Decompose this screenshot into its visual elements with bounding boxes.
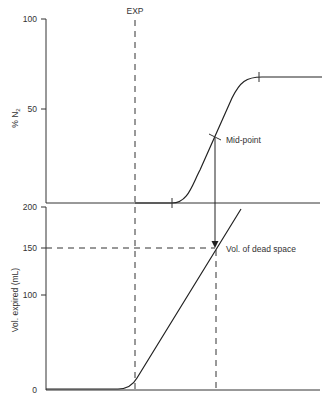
volume-curve (46, 209, 241, 389)
ytick-200: 200 (23, 202, 37, 212)
top-ylabel-sub: 2 (15, 108, 21, 112)
ytick-100: 100 (23, 14, 37, 24)
bottom-plot (41, 207, 320, 390)
midpoint-label: Mid-point (226, 135, 262, 145)
bottom-ylabel-text: Vol. expired (mL) (10, 268, 20, 332)
ytick-vol-100: 100 (23, 290, 37, 300)
bottom-ylabel: Vol. expired (mL) (10, 268, 20, 332)
exp-label: EXP (126, 6, 143, 16)
top-ylabel-text: % N (10, 112, 20, 128)
ytick-50: 50 (28, 104, 38, 114)
ytick-150: 150 (23, 243, 37, 253)
top-ylabel: % N2 (10, 108, 21, 128)
svg-text:% N2: % N2 (10, 108, 21, 128)
ytick-0: 0 (32, 385, 37, 395)
top-plot (41, 19, 322, 208)
fowler-diagram: 100 50 200 150 100 0 EXP Mid-point Vol. … (0, 0, 328, 399)
dead-space-label: Vol. of dead space (226, 244, 296, 254)
